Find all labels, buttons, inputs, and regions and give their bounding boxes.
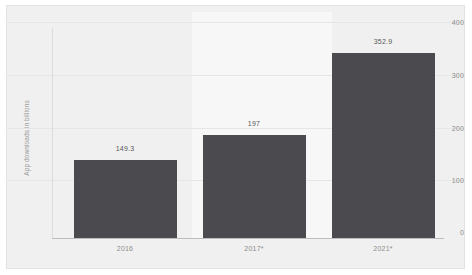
y-tick-label-400: 400	[424, 19, 464, 26]
bar-value-2016: 149.3	[116, 145, 135, 152]
gridline-400	[7, 22, 464, 23]
bar-value-2021: 352.9	[374, 38, 393, 45]
bar-value-2017: 197	[248, 120, 260, 127]
bar-2017[interactable]	[203, 135, 306, 238]
bar-2016[interactable]	[74, 160, 177, 238]
x-tick-label-2021: 2021*	[373, 245, 392, 252]
chart-panel: 400 300 200 100 0 App downloads in billi…	[6, 5, 465, 269]
x-axis-line	[52, 238, 444, 239]
bars-group	[52, 28, 444, 238]
x-tick-label-2017: 2017*	[244, 245, 263, 252]
x-tick-label-2016: 2016	[117, 245, 133, 252]
bar-2021[interactable]	[332, 53, 435, 238]
y-axis-label: App downloads in billions	[23, 100, 30, 176]
chart-figure: 400 300 200 100 0 App downloads in billi…	[0, 0, 472, 275]
